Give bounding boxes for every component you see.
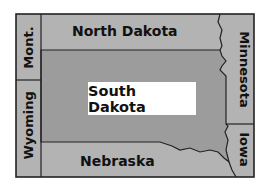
label-nebraska: Nebraska xyxy=(80,153,155,169)
label-wyoming: Wyoming xyxy=(21,96,36,160)
label-south-dakota: South Dakota xyxy=(88,83,196,115)
label-montana: Mont. xyxy=(21,26,36,70)
label-north-dakota: North Dakota xyxy=(72,23,178,39)
label-minnesota: Minnesota xyxy=(237,30,252,110)
label-iowa: Iowa xyxy=(237,130,252,170)
south-dakota-label-box: South Dakota xyxy=(88,82,196,115)
